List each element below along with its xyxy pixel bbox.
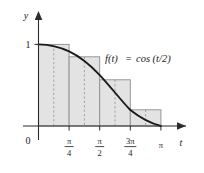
y-label-one: 1 (26, 39, 31, 50)
x-tick-label-pi: π (159, 140, 164, 150)
x-tick-label-three-pi-over-4-numerator: 3π (126, 136, 135, 146)
x-tick-label-pi-over-2: π 2 (95, 136, 104, 158)
y-axis-arrowhead (35, 11, 43, 20)
x-tick-label-pi-over-2-denominator: 2 (98, 148, 102, 158)
function-annotation-lhs: f(t) (105, 53, 118, 65)
chart-canvas: y t 1 0 π 4 π 2 3π 4 π f(t) = cos (t/2) (0, 0, 204, 173)
origin-label-zero: 0 (26, 135, 31, 146)
riemann-sum-figure: y t 1 0 π 4 π 2 3π 4 π f(t) = cos (t/2) (0, 0, 204, 173)
x-tick-label-pi-over-4: π 4 (65, 136, 74, 158)
x-tick-label-pi-over-2-numerator: π (98, 136, 103, 146)
function-annotation: f(t) = cos (t/2) (105, 53, 171, 65)
function-annotation-equals: = (125, 53, 132, 64)
function-annotation-rhs: cos (t/2) (136, 53, 171, 65)
x-axis-label: t (180, 137, 183, 148)
x-tick-label-three-pi-over-4: 3π 4 (124, 136, 136, 158)
x-tick-label-pi-over-4-denominator: 4 (67, 148, 72, 158)
y-axis-label: y (23, 10, 29, 21)
x-tick-label-three-pi-over-4-denominator: 4 (128, 148, 133, 158)
x-tick-label-pi-over-4-numerator: π (67, 136, 72, 146)
x-axis-arrowhead (177, 122, 186, 130)
x-axis-ticks (69, 126, 161, 131)
